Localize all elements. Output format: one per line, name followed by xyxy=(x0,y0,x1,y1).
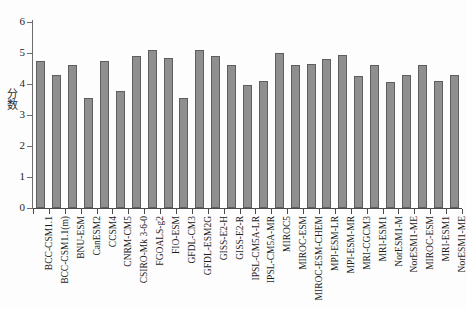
x-tick-label: FGOALS-g2 xyxy=(156,216,165,266)
bar xyxy=(434,81,443,208)
x-tick-mark xyxy=(335,209,336,214)
y-tick-label: 4 xyxy=(3,77,25,89)
x-tick-label: CanESM2 xyxy=(93,216,102,256)
bar xyxy=(148,50,157,208)
x-tick-mark xyxy=(224,209,225,214)
y-tick-label: 6 xyxy=(3,15,25,27)
x-tick-label: BCC-CSM1.1(m) xyxy=(61,216,70,284)
bar xyxy=(100,61,109,208)
y-tick-label: 1 xyxy=(3,170,25,182)
y-tick-label: 5 xyxy=(3,46,25,58)
x-tick-mark xyxy=(128,209,129,214)
x-tick-label: MRI-ESM1 xyxy=(379,216,388,261)
bar xyxy=(52,75,61,208)
x-tick-label: CCSM4 xyxy=(109,216,118,247)
bar xyxy=(275,53,284,208)
x-tick-label: MIROC-ESM xyxy=(299,216,308,270)
plot-area xyxy=(33,22,462,208)
x-tick-mark xyxy=(192,209,193,214)
y-tick-label: 2 xyxy=(3,139,25,151)
x-tick-mark xyxy=(49,209,50,214)
x-tick-label: MRI-CGCM3 xyxy=(363,216,372,270)
x-tick-mark xyxy=(240,209,241,214)
x-tick-label: GFDL-CM3 xyxy=(188,216,197,264)
bar xyxy=(338,55,347,208)
x-tick-label: MPI-ESM-LR xyxy=(331,216,340,271)
x-tick-label: IPSL-CM5A-LR xyxy=(252,216,261,280)
x-tick-mark xyxy=(414,209,415,214)
x-tick-label: NorESM1-M xyxy=(395,216,404,267)
x-tick-label: NorESM1-ME xyxy=(458,216,467,272)
bar xyxy=(354,76,363,208)
bar xyxy=(179,98,188,208)
bar xyxy=(195,50,204,208)
y-tick-label: 0 xyxy=(3,201,25,213)
x-tick-label: MIROC5 xyxy=(283,216,292,252)
bar xyxy=(370,65,379,208)
bar xyxy=(132,56,141,208)
x-tick-label: MRI-ESM1 xyxy=(442,216,451,261)
x-tick-label: CNRM-CM5 xyxy=(124,216,133,267)
x-tick-mark xyxy=(367,209,368,214)
x-tick-label: GFDL-ESM2G xyxy=(204,216,213,275)
bar xyxy=(84,98,93,208)
x-tick-label: BNU-ESM xyxy=(77,216,86,259)
bar xyxy=(164,58,173,208)
x-tick-label: GISS-E2-R xyxy=(236,216,245,260)
bar xyxy=(386,82,395,208)
bar xyxy=(227,65,236,208)
x-tick-mark xyxy=(65,209,66,214)
y-tick-label: 3 xyxy=(3,108,25,120)
bar xyxy=(450,75,459,208)
x-tick-mark xyxy=(144,209,145,214)
bar xyxy=(36,61,45,208)
bar xyxy=(116,91,125,208)
bar xyxy=(259,81,268,208)
x-tick-mark xyxy=(97,209,98,214)
x-tick-mark xyxy=(430,209,431,214)
x-tick-mark xyxy=(383,209,384,214)
bar xyxy=(307,64,316,208)
x-tick-label: GISS-E2-H xyxy=(220,216,229,260)
x-tick-mark xyxy=(462,209,463,214)
bar xyxy=(291,65,300,208)
x-tick-mark xyxy=(271,209,272,214)
x-tick-mark xyxy=(287,209,288,214)
bar xyxy=(322,59,331,208)
bar-chart: 分数 0123456 BCC-CSM1.1BCC-CSM1.1(m)BNU-ES… xyxy=(0,0,467,309)
bar xyxy=(68,65,77,208)
x-tick-label: FIO-ESM xyxy=(172,216,181,254)
x-tick-mark xyxy=(176,209,177,214)
bar xyxy=(211,56,220,208)
x-tick-mark xyxy=(208,209,209,214)
x-tick-mark xyxy=(446,209,447,214)
x-tick-mark xyxy=(160,209,161,214)
x-tick-label: BCC-CSM1.1 xyxy=(45,216,54,270)
x-tick-label: NorESM1-ME xyxy=(410,216,419,272)
bar xyxy=(243,85,252,208)
x-tick-mark xyxy=(81,209,82,214)
x-tick-label: CSIRO-Mk 3-6-0 xyxy=(140,216,149,283)
x-tick-mark xyxy=(319,209,320,214)
x-tick-mark xyxy=(303,209,304,214)
x-tick-mark xyxy=(112,209,113,214)
x-tick-mark xyxy=(351,209,352,214)
x-tick-label: MIROC-ESM-CHEM xyxy=(315,216,324,300)
y-axis-label: 分数 xyxy=(2,88,18,110)
x-tick-mark xyxy=(255,209,256,214)
x-tick-mark xyxy=(398,209,399,214)
x-tick-label: IPSL-CM5A-MR xyxy=(267,216,276,283)
x-tick-label: MPI-ESM-MR xyxy=(347,216,356,274)
bar xyxy=(418,65,427,208)
bar xyxy=(402,75,411,208)
x-tick-label: MIROC-ESM xyxy=(426,216,435,270)
x-tick-mark xyxy=(33,209,34,214)
